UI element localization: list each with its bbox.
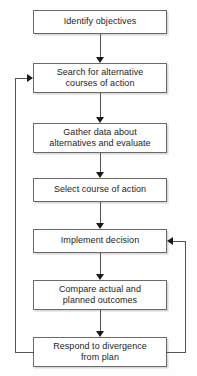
node-respond-divergence[interactable]: Respond to divergence from plan	[33, 337, 167, 367]
edge-gather-to-select-line	[100, 153, 101, 172]
edge-search-to-gather-line	[100, 93, 101, 117]
feedback-right-bottom-segment	[166, 352, 186, 353]
node-label: Respond to divergence from plan	[53, 341, 147, 364]
node-compare-outcomes[interactable]: Compare actual and planned outcomes	[33, 280, 167, 310]
node-label: Identify objectives	[64, 16, 137, 28]
flowchart-canvas: Identify objectives Search for alternati…	[0, 0, 197, 376]
edge-compare-to-respond-line	[100, 310, 101, 331]
edge-implement-to-compare-line	[100, 253, 101, 274]
node-identify-objectives[interactable]: Identify objectives	[33, 10, 167, 34]
feedback-right-arrowhead	[167, 237, 173, 245]
edge-identify-to-search-arrow	[96, 57, 104, 63]
node-search-alternatives[interactable]: Search for alternative courses of action	[33, 63, 167, 93]
feedback-left-arrowhead	[27, 74, 33, 82]
node-label: Compare actual and planned outcomes	[59, 284, 141, 307]
edge-implement-to-compare-arrow	[96, 274, 104, 280]
node-implement-decision[interactable]: Implement decision	[33, 229, 167, 253]
feedback-right-vertical-segment	[185, 241, 186, 353]
edge-identify-to-search-line	[100, 34, 101, 57]
edge-gather-to-select-arrow	[96, 172, 104, 178]
node-label: Implement decision	[61, 235, 139, 247]
feedback-left-bottom-segment	[15, 352, 34, 353]
node-label: Select course of action	[54, 184, 146, 196]
edge-select-to-implement-arrow	[96, 223, 104, 229]
feedback-right-top-segment	[173, 241, 186, 242]
feedback-left-vertical-segment	[15, 78, 16, 353]
node-label: Search for alternative courses of action	[57, 67, 144, 90]
node-gather-data[interactable]: Gather data about alternatives and evalu…	[33, 123, 167, 153]
node-select-course[interactable]: Select course of action	[33, 178, 167, 202]
edge-compare-to-respond-arrow	[96, 331, 104, 337]
edge-select-to-implement-line	[100, 202, 101, 223]
node-label: Gather data about alternatives and evalu…	[49, 127, 150, 150]
edge-search-to-gather-arrow	[96, 117, 104, 123]
